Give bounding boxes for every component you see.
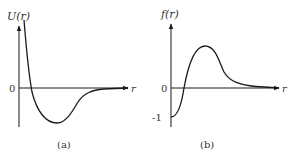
caption-a: (a) <box>57 139 71 150</box>
x-axis-label-a: r <box>131 83 137 94</box>
panel-a <box>19 20 128 127</box>
potential-curve <box>24 20 128 123</box>
origin-label-b: 0 <box>161 83 167 94</box>
figure-canvas: U(r) 0 r (a) f(r) 0 -1 r (b) <box>0 0 292 154</box>
origin-label-a: 0 <box>9 83 15 94</box>
x-axis-label-b: r <box>282 83 288 94</box>
y-axis-label-b: f(r) <box>160 8 179 21</box>
mayer-function-curve <box>171 46 279 117</box>
y-axis-label-a: U(r) <box>7 10 30 23</box>
y-tick-label-minus-one: -1 <box>152 112 162 123</box>
panel-b <box>171 24 279 127</box>
caption-b: (b) <box>200 139 214 150</box>
